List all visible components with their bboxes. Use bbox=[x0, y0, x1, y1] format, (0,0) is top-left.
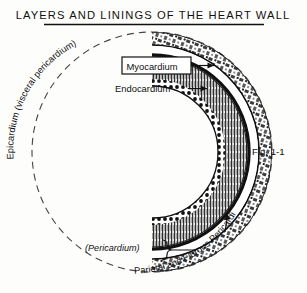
page-title: LAYERS AND LININGS OF THE HEART WALL bbox=[16, 9, 291, 21]
heart-wall-diagram: LAYERS AND LININGS OF THE HEART WALL Epi… bbox=[0, 0, 307, 293]
label-epicardium: Epicardium (visceral pericardium) bbox=[5, 38, 78, 160]
layer-endocardium bbox=[83, 83, 222, 222]
figure-caption: Fig. 1-1 bbox=[252, 146, 285, 157]
myocardium-label-text: Myocardium bbox=[127, 61, 178, 72]
pericardium-paren-text: (Pericardium) bbox=[85, 243, 140, 253]
endocardium-label-text: Endocardium bbox=[115, 83, 170, 94]
